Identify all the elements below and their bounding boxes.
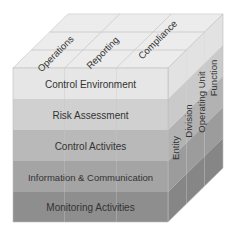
coso-cube-diagram: Control Environment Risk Assessment Cont… [0,0,233,233]
label-division: Division [183,104,194,137]
label-entity: Entity [170,136,181,160]
label-monitoring-activities: Monitoring Activities [46,202,134,213]
label-function: Function [208,60,219,96]
label-control-activities: Control Activites [55,141,127,152]
label-risk-assessment: Risk Assessment [52,110,128,121]
label-control-environment: Control Environment [45,79,136,90]
label-operating-unit: Operating Unit [196,71,207,133]
label-information-communication: Information & Communication [28,172,153,183]
